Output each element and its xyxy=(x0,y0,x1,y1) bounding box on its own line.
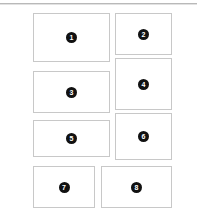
placeholder-box[interactable]: 7 xyxy=(33,166,95,208)
box-number-badge: 1 xyxy=(66,32,77,43)
box-number-badge: 8 xyxy=(131,182,142,193)
box-number-badge: 6 xyxy=(138,131,149,142)
placeholder-box[interactable]: 6 xyxy=(115,113,172,160)
box-number-badge: 7 xyxy=(59,182,70,193)
placeholder-box[interactable]: 3 xyxy=(33,71,110,113)
placeholder-box[interactable]: 2 xyxy=(115,13,172,55)
box-number-badge: 4 xyxy=(138,79,149,90)
placeholder-box[interactable]: 8 xyxy=(101,166,172,208)
placeholder-box[interactable]: 5 xyxy=(33,120,110,157)
placeholder-box[interactable]: 1 xyxy=(33,13,110,62)
layout-canvas: 1 2 3 4 5 6 7 8 xyxy=(0,0,197,219)
top-divider-rule-shadow xyxy=(0,4,197,5)
placeholder-box[interactable]: 4 xyxy=(115,58,172,110)
box-number-badge: 3 xyxy=(66,87,77,98)
box-number-badge: 2 xyxy=(138,29,149,40)
box-number-badge: 5 xyxy=(66,133,77,144)
